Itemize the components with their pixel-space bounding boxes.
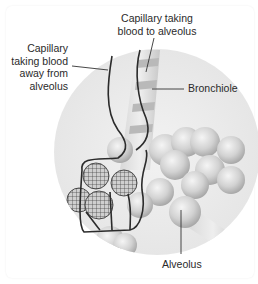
label-capillary-away: Capillary taking blood away from alveolu…: [6, 42, 68, 92]
label-alveolus: Alveolus: [162, 258, 202, 271]
label-line: taking blood: [6, 55, 68, 68]
label-line: blood to alveolus: [112, 25, 202, 38]
label-bronchiole: Bronchiole: [188, 82, 238, 95]
label-line: alveolus: [6, 80, 68, 93]
label-line: Capillary taking: [112, 12, 202, 25]
label-capillary-to: Capillary taking blood to alveolus: [112, 12, 202, 37]
label-line: away from: [6, 67, 68, 80]
label-line: Capillary: [6, 42, 68, 55]
